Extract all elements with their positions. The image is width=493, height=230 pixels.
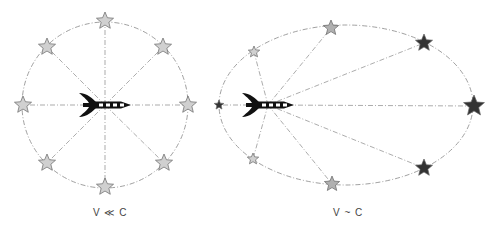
- sight-line: [253, 105, 268, 159]
- rocket-icon-slow: [79, 93, 131, 117]
- star-icon: [14, 96, 31, 112]
- star-icon: [415, 34, 432, 50]
- star-icon: [155, 154, 172, 170]
- sight-line: [268, 43, 424, 105]
- sight-line: [105, 105, 164, 163]
- sight-line: [47, 105, 105, 163]
- sight-line: [268, 28, 331, 105]
- sight-line: [268, 105, 474, 106]
- rocket-icon-fast: [242, 93, 294, 117]
- star-icon: [324, 176, 339, 190]
- relativistic-aberration-diagram: [0, 0, 493, 230]
- star-icon: [38, 154, 55, 170]
- star-icon: [415, 159, 432, 175]
- caption-fast: V ~ C: [333, 207, 363, 218]
- sight-line: [47, 47, 105, 105]
- caption-slow: V ≪ C: [93, 207, 127, 218]
- star-icon: [96, 12, 113, 28]
- star-icon: [214, 100, 224, 109]
- star-icon: [323, 20, 338, 34]
- sight-line: [254, 52, 268, 105]
- star-icon: [464, 95, 485, 115]
- sight-line: [268, 105, 424, 168]
- star-icon: [96, 178, 113, 194]
- sight-line: [105, 47, 163, 105]
